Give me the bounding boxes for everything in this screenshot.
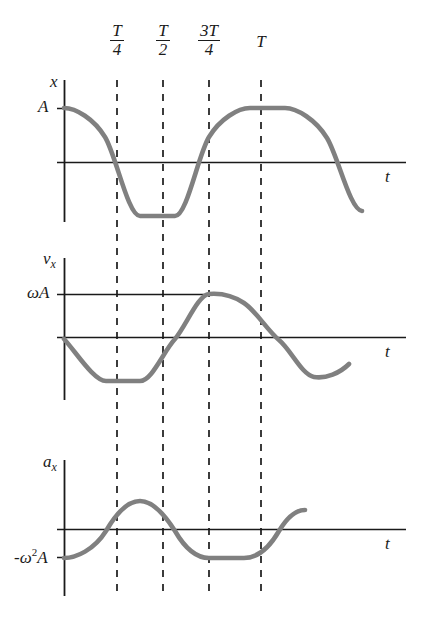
shm-figure: T 4 T 2 3T 4 T x A t vx ωA t ax: [0, 0, 431, 630]
tick-numerator: 3T: [198, 22, 220, 41]
displacement-y-axis-label: x: [50, 72, 58, 92]
tick-denominator: 2: [156, 41, 169, 59]
displacement-amplitude-label: A: [38, 97, 48, 117]
acceleration-min-label: -ω2A: [14, 546, 48, 568]
tick-numerator: T: [156, 22, 169, 41]
tick-numerator: T: [256, 32, 265, 51]
tick-label-t-half: T 2: [149, 22, 177, 59]
tick-denominator: 4: [110, 41, 123, 59]
velocity-omega-a-label: ωA: [27, 283, 49, 303]
tick-label-t-three-quarter: 3T 4: [193, 22, 225, 59]
velocity-y-axis-label: vx: [43, 249, 56, 272]
acceleration-x-axis-label: t: [385, 534, 390, 554]
velocity-x-axis-label: t: [385, 342, 390, 362]
tick-denominator: 4: [198, 41, 220, 59]
displacement-x-axis-label: t: [385, 167, 390, 187]
panel-velocity: [57, 258, 406, 400]
panel-acceleration: [57, 460, 406, 596]
tick-label-t-quarter: T 4: [103, 22, 131, 59]
tick-numerator: T: [110, 22, 123, 41]
panel-displacement: [57, 80, 406, 222]
shm-graph-svg: [0, 0, 431, 630]
tick-label-t-full: T: [247, 33, 275, 50]
acceleration-y-axis-label: ax: [43, 452, 57, 475]
